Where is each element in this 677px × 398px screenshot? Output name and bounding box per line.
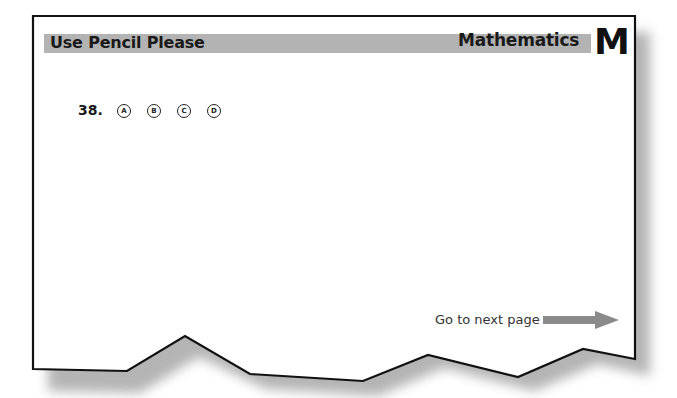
answer-bubble-a[interactable]: A bbox=[117, 104, 131, 118]
question-number: 38. bbox=[78, 102, 103, 118]
answer-bubble-c[interactable]: C bbox=[177, 104, 191, 118]
section-letter: M bbox=[594, 24, 630, 60]
right-arrow-icon bbox=[543, 310, 623, 330]
page-outline bbox=[0, 0, 677, 398]
subject-title: Mathematics bbox=[458, 30, 579, 50]
header-instruction: Use Pencil Please bbox=[50, 33, 205, 52]
go-to-next-page-label: Go to next page bbox=[435, 312, 540, 327]
answer-bubble-b[interactable]: B bbox=[147, 104, 161, 118]
answer-bubble-d[interactable]: D bbox=[207, 104, 221, 118]
